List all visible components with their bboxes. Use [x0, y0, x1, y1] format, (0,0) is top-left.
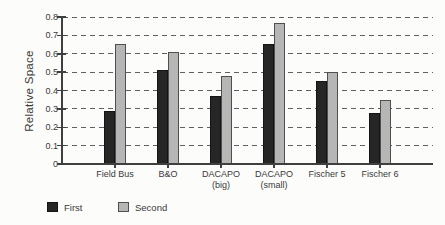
bar-second-fischer-6 — [380, 100, 391, 164]
category-label-fischer-6: Fischer 6 — [348, 169, 412, 180]
bar-first-b-o — [157, 70, 168, 164]
bar-second-fischer-5 — [327, 72, 338, 164]
legend-swatch-second — [118, 202, 129, 212]
category-label-line: Fischer 6 — [348, 169, 412, 180]
y-tick-label-0.8: 0.8 — [28, 12, 58, 22]
gridline-0.7 — [63, 35, 433, 36]
y-tick-label-0.1: 0.1 — [28, 141, 58, 151]
y-tick-label-0.5: 0.5 — [28, 67, 58, 77]
y-axis-line — [61, 16, 63, 165]
y-tick-label-0.7: 0.7 — [28, 30, 58, 40]
bar-second-dacapo-small — [274, 23, 285, 164]
bar-second-b-o — [168, 52, 179, 164]
legend-swatch-first — [47, 202, 58, 212]
legend-label-second: Second — [135, 202, 167, 213]
bar-second-dacapo-big — [221, 76, 232, 164]
bar-chart-figure: Relative Space 00.10.20.30.40.50.60.70.8… — [0, 0, 445, 225]
bar-first-field-bus — [104, 111, 115, 164]
x-axis-line — [61, 163, 433, 165]
legend-label-first: First — [64, 202, 82, 213]
gridline-0.8 — [63, 17, 433, 18]
bar-first-fischer-5 — [316, 81, 327, 164]
bar-first-fischer-6 — [369, 113, 380, 164]
y-tick-label-0.3: 0.3 — [28, 104, 58, 114]
y-tick-label-0: 0 — [28, 159, 58, 169]
bar-second-field-bus — [115, 44, 126, 164]
bar-first-dacapo-small — [263, 44, 274, 164]
y-tick-label-0.4: 0.4 — [28, 86, 58, 96]
category-label-line: (small) — [242, 180, 306, 191]
y-tick-label-0.2: 0.2 — [28, 122, 58, 132]
bar-first-dacapo-big — [210, 96, 221, 164]
y-tick-label-0.6: 0.6 — [28, 49, 58, 59]
